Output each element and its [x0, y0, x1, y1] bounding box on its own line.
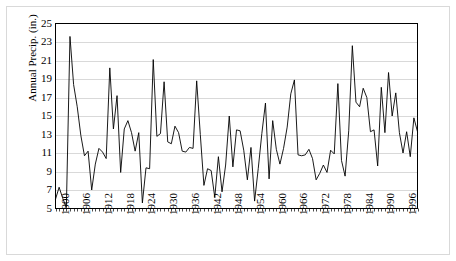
- x-tick-label: 1972: [320, 193, 331, 215]
- x-tick-label: 1990: [385, 193, 396, 215]
- x-tick-label: 1954: [255, 193, 266, 215]
- x-tick-label: 1942: [212, 193, 223, 215]
- x-tick-label: 1978: [342, 193, 353, 215]
- x-tick-label: 1900: [60, 193, 71, 215]
- x-tick-label: 1912: [103, 193, 114, 215]
- chart-page: Annual Precip. (in.) 5791113151719212325…: [0, 0, 456, 261]
- x-tick-label: 1984: [364, 193, 375, 215]
- precipitation-line-chart: Annual Precip. (in.) 5791113151719212325…: [0, 0, 456, 261]
- x-tick-label: 1924: [146, 193, 157, 215]
- x-axis-tick-labels: 1900190619121918192419301936194219481954…: [0, 0, 456, 261]
- x-tick-label: 1936: [190, 193, 201, 215]
- x-tick-label: 1930: [168, 193, 179, 215]
- x-tick-label: 1960: [277, 193, 288, 215]
- x-tick-label: 1906: [81, 193, 92, 215]
- x-tick-label: 1966: [298, 193, 309, 215]
- x-tick-label: 1948: [233, 193, 244, 215]
- x-tick-label: 1918: [125, 193, 136, 215]
- x-tick-label: 1996: [407, 193, 418, 215]
